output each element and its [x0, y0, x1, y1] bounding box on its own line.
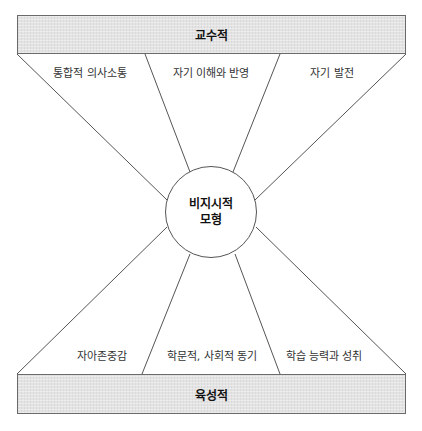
center-label-line1: 비지시적: [189, 196, 233, 212]
instructional-band: 교수적: [17, 15, 406, 54]
top-segment-label-self-understanding: 자기 이해와 반영: [173, 64, 250, 80]
bottom-segment-label-self-esteem: 자아존중감: [77, 347, 127, 363]
bottom-segment-label-academic-social-motivation: 학문적, 사회적 동기: [167, 347, 258, 363]
top-segment-label-self-development: 자기 발전: [310, 64, 354, 80]
center-model-circle: 비지시적 모형: [165, 166, 257, 258]
top-segment-label-integrated-communication: 통합적 의사소통: [53, 64, 127, 80]
nurturant-band-label: 육성적: [195, 386, 228, 403]
nurturant-band: 육성적: [17, 374, 406, 414]
nondirective-model-diagram: 교수적 통합적 의사소통 자기 이해와 반영 자기 발전 비지시적 모형 자아존…: [0, 0, 422, 431]
instructional-band-label: 교수적: [195, 26, 228, 43]
center-label-line2: 모형: [189, 212, 233, 228]
bottom-segment-label-learning-ability: 학습 능력과 성취: [286, 347, 363, 363]
